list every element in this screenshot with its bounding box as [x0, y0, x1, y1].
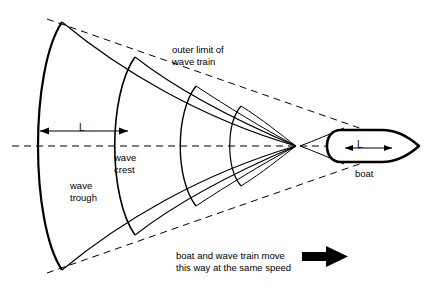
wave-train-diagram: outer limit of wave train wave crest wav…: [0, 0, 428, 297]
boat-hull-icon: [327, 130, 419, 162]
label-wave-crest: wave crest: [114, 152, 136, 175]
label-wavelength-boat: L: [357, 139, 363, 151]
label-boat: boat: [355, 168, 374, 180]
diverging-wave-upper-4: [241, 106, 296, 146]
label-wavelength-left: L: [79, 122, 85, 134]
label-wave-trough: wave trough: [70, 180, 97, 203]
diverging-wave-upper-1: [62, 22, 296, 146]
diverging-wave-upper-3: [196, 86, 296, 146]
label-outer-limit: outer limit of wave train: [172, 44, 224, 67]
diverging-wave-lower-4: [241, 146, 296, 186]
motion-arrow-icon: [302, 246, 348, 267]
outer-limit-upper-dashed: [47, 19, 411, 146]
diverging-wave-lower-3: [196, 146, 296, 206]
label-motion-note: boat and wave train move this way at the…: [176, 250, 291, 273]
